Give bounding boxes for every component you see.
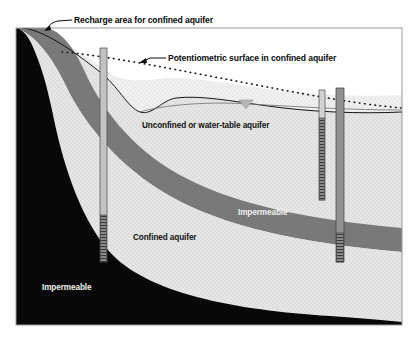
water-table-well-right[interactable] [319,90,325,200]
well-screen-left [101,215,107,262]
diagram-body [16,24,402,325]
cross-section-drawing [0,0,417,338]
deep-well-right[interactable] [336,88,344,262]
artesian-well-left[interactable] [100,48,107,262]
well-screen-deep [337,233,344,262]
well-screen-shallow [320,118,325,200]
aquifer-cross-section-figure: Recharge area for confined aquifer Poten… [0,0,417,338]
